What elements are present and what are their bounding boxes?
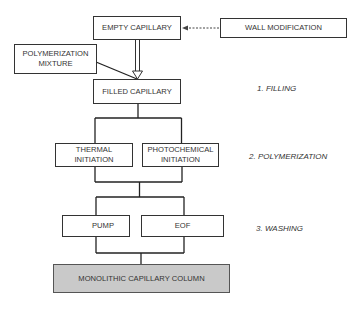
pump-box: PUMP	[62, 215, 130, 237]
empty-capillary-box: EMPTY CAPILLARY	[93, 16, 181, 40]
polymerization-mixture-label-line2: MIXTURE	[38, 59, 72, 69]
pump-label: PUMP	[92, 221, 114, 231]
thermal-label-line2: INITIATION	[74, 155, 113, 165]
step-filling-label: 1. FILLING	[257, 84, 296, 93]
empty-capillary-label: EMPTY CAPILLARY	[102, 23, 172, 33]
monolithic-column-box: MONOLITHIC CAPILLARY COLUMN	[53, 264, 230, 293]
step-washing-label: 3. WASHING	[256, 224, 303, 233]
wall-modification-label: WALL MODIFICATION	[245, 23, 322, 33]
photochemical-initiation-box: PHOTOCHEMICAL INITIATION	[142, 143, 219, 167]
filled-capillary-label: FILLED CAPILLARY	[102, 87, 172, 97]
filled-capillary-box: FILLED CAPILLARY	[93, 79, 181, 104]
eof-box: EOF	[141, 215, 224, 237]
monolithic-column-label: MONOLITHIC CAPILLARY COLUMN	[78, 274, 204, 284]
polymerization-mixture-label-line1: POLYMERIZATION	[23, 49, 89, 59]
wall-modification-box: WALL MODIFICATION	[220, 18, 347, 38]
polymerization-mixture-box: POLYMERIZATION MIXTURE	[14, 44, 97, 74]
photochemical-label-line1: PHOTOCHEMICAL	[147, 145, 213, 155]
photochemical-label-line2: INITIATION	[161, 155, 200, 165]
eof-label: EOF	[175, 221, 191, 231]
thermal-initiation-box: THERMAL INITIATION	[55, 143, 133, 167]
step-polymerization-label: 2. POLYMERIZATION	[249, 152, 327, 161]
thermal-label-line1: THERMAL	[76, 145, 112, 155]
